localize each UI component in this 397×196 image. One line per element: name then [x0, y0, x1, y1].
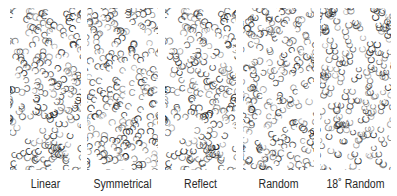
svg-text:C: C [206, 41, 214, 52]
svg-text:C: C [243, 111, 248, 119]
svg-text:C: C [75, 46, 81, 54]
panel-random-18: CCCCCCCCCCCCCCCCCCCCCCCCCCCCCCCCCCCCCCCC… [320, 8, 391, 170]
svg-text:C: C [370, 66, 379, 73]
svg-text:C: C [344, 119, 356, 127]
svg-text:C: C [34, 167, 42, 170]
label-random-18: 18˚ Random [320, 175, 391, 193]
svg-text:C: C [384, 36, 391, 44]
svg-text:C: C [382, 83, 391, 93]
svg-text:C: C [324, 37, 335, 45]
svg-text:C: C [87, 39, 91, 48]
svg-text:C: C [62, 162, 70, 170]
svg-text:C: C [320, 163, 328, 170]
svg-text:C: C [188, 23, 199, 30]
svg-text:C: C [224, 65, 234, 72]
svg-text:C: C [94, 74, 104, 87]
label-random: Random [243, 175, 314, 193]
svg-text:C: C [136, 128, 148, 136]
panel-symmetrical: CCCCCCCCCCCCCCCCCCCCCCCCCCCCCCCCCCCCCCCC… [87, 8, 158, 170]
svg-text:C: C [148, 8, 155, 11]
svg-text:C: C [117, 65, 128, 77]
svg-text:C: C [218, 84, 225, 94]
svg-text:C: C [10, 38, 14, 47]
svg-text:C: C [303, 97, 314, 108]
svg-text:C: C [189, 167, 198, 170]
svg-text:C: C [105, 167, 112, 170]
svg-text:C: C [165, 126, 173, 138]
svg-text:C: C [351, 20, 363, 29]
svg-text:C: C [339, 138, 350, 145]
svg-text:C: C [324, 146, 336, 156]
svg-text:C: C [10, 85, 12, 95]
svg-text:C: C [256, 143, 268, 153]
texture-mode-comparison-figure: CCCCCCCCCCCCCCCCCCCCCCCCCCCCCCCCCCCCCCCC… [0, 0, 397, 196]
svg-text:C: C [324, 8, 336, 11]
svg-text:C: C [352, 98, 362, 104]
svg-text:C: C [358, 35, 368, 42]
svg-text:C: C [379, 161, 389, 168]
svg-text:C: C [243, 92, 252, 100]
svg-text:C: C [231, 104, 236, 111]
svg-text:C: C [76, 166, 81, 170]
svg-text:C: C [231, 165, 236, 170]
svg-text:C: C [243, 77, 247, 86]
svg-text:C: C [180, 164, 188, 170]
svg-text:C: C [106, 84, 113, 94]
scatter-texture-random: CCCCCCCCCCCCCCCCCCCCCCCCCCCCCCCCCCCCCCCC… [243, 8, 314, 170]
panel-linear: CCCCCCCCCCCCCCCCCCCCCCCCCCCCCCCCCCCCCCCC… [10, 8, 81, 170]
svg-text:C: C [340, 93, 351, 101]
svg-text:C: C [320, 151, 323, 159]
svg-text:C: C [371, 40, 383, 49]
svg-text:C: C [156, 8, 158, 11]
svg-text:C: C [111, 8, 119, 12]
svg-text:C: C [130, 8, 138, 15]
svg-text:C: C [344, 41, 355, 49]
svg-text:C: C [96, 86, 104, 96]
label-symmetrical: Symmetrical [87, 175, 158, 193]
svg-text:C: C [230, 144, 236, 153]
svg-text:C: C [293, 153, 301, 165]
svg-text:C: C [272, 78, 279, 88]
svg-text:C: C [10, 52, 21, 62]
svg-text:C: C [323, 132, 335, 142]
svg-text:C: C [146, 97, 158, 110]
svg-text:C: C [365, 83, 374, 89]
scatter-texture-random-18: CCCCCCCCCCCCCCCCCCCCCCCCCCCCCCCCCCCCCCCC… [320, 8, 391, 170]
svg-text:C: C [354, 66, 364, 74]
svg-text:C: C [352, 158, 363, 165]
svg-text:C: C [147, 85, 155, 97]
svg-text:C: C [217, 140, 229, 149]
svg-text:C: C [10, 128, 19, 137]
svg-text:C: C [100, 8, 108, 12]
label-reflect: Reflect [165, 175, 236, 193]
svg-text:C: C [387, 116, 391, 123]
scatter-texture-reflect: CCCCCCCCCCCCCCCCCCCCCCCCCCCCCCCCCCCCCCCC… [165, 8, 236, 170]
svg-text:C: C [223, 39, 233, 52]
svg-text:C: C [77, 152, 81, 164]
panel-random: CCCCCCCCCCCCCCCCCCCCCCCCCCCCCCCCCCCCCCCC… [243, 8, 314, 170]
svg-text:C: C [18, 86, 27, 98]
svg-text:C: C [208, 64, 218, 72]
svg-text:C: C [92, 44, 102, 51]
label-linear: Linear [10, 175, 81, 193]
svg-text:C: C [172, 86, 182, 98]
svg-text:C: C [377, 8, 387, 15]
scatter-texture-linear: CCCCCCCCCCCCCCCCCCCCCCCCCCCCCCCCCCCCCCCC… [10, 8, 81, 170]
svg-text:C: C [168, 107, 180, 116]
svg-text:C: C [265, 48, 276, 56]
svg-text:C: C [49, 43, 59, 50]
svg-text:C: C [165, 9, 170, 21]
svg-text:C: C [243, 45, 247, 53]
svg-text:C: C [293, 23, 302, 34]
svg-text:C: C [320, 15, 324, 21]
svg-text:C: C [344, 103, 356, 111]
svg-text:C: C [340, 49, 352, 58]
svg-text:C: C [385, 134, 391, 143]
svg-text:C: C [369, 144, 379, 152]
svg-text:C: C [25, 164, 33, 170]
svg-text:C: C [64, 131, 76, 141]
svg-text:C: C [10, 9, 15, 20]
svg-text:C: C [87, 8, 94, 11]
svg-text:C: C [70, 85, 78, 97]
panel-reflect: CCCCCCCCCCCCCCCCCCCCCCCCCCCCCCCCCCCCCCCC… [165, 8, 236, 170]
